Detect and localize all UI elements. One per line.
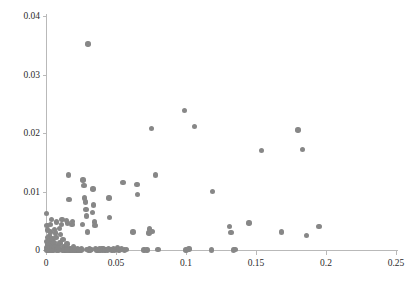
y-tick-label-4: 0.04 [4,11,40,21]
data-point [231,247,236,252]
y-tick-label-3: 0.03 [4,70,40,80]
data-point [295,127,300,132]
y-tick-mark-1 [43,192,47,193]
data-point [84,213,89,218]
data-point [186,246,191,251]
data-point [227,224,232,229]
data-point [66,172,71,177]
x-tick-mark-5 [396,251,397,255]
x-tick-label-2: 0.1 [166,258,206,268]
x-tick-mark-4 [326,251,327,255]
data-point [149,126,154,131]
data-point [106,195,111,200]
data-point [81,183,86,188]
data-point [90,210,95,215]
scatter-chart: 00.010.020.030.04 00.050.10.150.20.25 [0,0,414,284]
data-point [279,229,284,234]
data-point [228,230,233,235]
data-point [85,229,90,234]
data-point [83,207,88,212]
data-point [246,220,251,225]
data-point [144,247,149,252]
data-point [153,172,158,177]
data-point [90,186,95,191]
data-point [57,226,62,231]
x-tick-label-3: 0.15 [236,258,276,268]
x-tick-label-4: 0.2 [306,258,346,268]
data-point [210,189,215,194]
data-point [209,247,214,252]
data-point [44,211,49,216]
x-tick-label-5: 0.25 [376,258,414,268]
data-point [304,233,309,238]
data-point [316,224,321,229]
data-point [120,180,125,185]
data-point [124,247,129,252]
y-tick-mark-4 [43,16,47,17]
data-point [91,202,96,207]
y-tick-mark-2 [43,133,47,134]
data-point [192,124,197,129]
data-point [300,147,305,152]
data-point [259,148,264,153]
data-point [66,197,71,202]
data-point [155,247,160,252]
data-point [182,108,187,113]
y-tick-label-1: 0.01 [4,187,40,197]
x-tick-mark-3 [256,251,257,255]
data-point [134,182,139,187]
y-tick-label-0: 0 [4,245,40,255]
data-point [48,222,53,227]
y-tick-label-2: 0.02 [4,128,40,138]
data-point [150,229,155,234]
data-point [83,199,88,204]
data-point [76,247,81,252]
data-point [107,215,112,220]
data-point [130,229,135,234]
data-point [92,223,97,228]
data-point [135,192,140,197]
data-point [80,177,85,182]
data-point [80,222,85,227]
y-tick-mark-3 [43,75,47,76]
data-point [85,41,90,46]
x-tick-label-0: 0 [26,258,66,268]
x-tick-label-1: 0.05 [96,258,136,268]
plot-area: 00.010.020.030.04 00.050.10.150.20.25 [0,0,414,284]
